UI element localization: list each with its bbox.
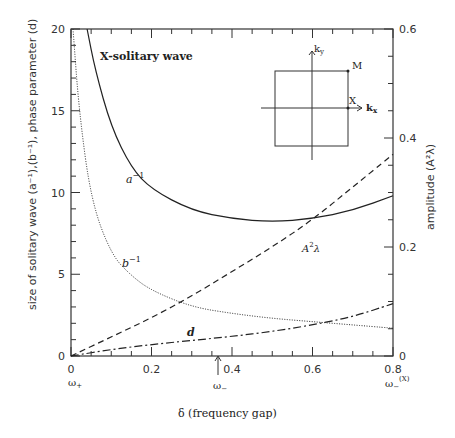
svg-text:20: 20 [51, 23, 65, 36]
inset-label-ky: ky [314, 43, 324, 56]
svg-text:0.6: 0.6 [399, 23, 417, 36]
plot-area: 00.20.40.60.80510152000.20.40.6 M X kx k… [0, 0, 455, 438]
brillouin-zone-inset [261, 51, 362, 160]
svg-text:0: 0 [68, 363, 75, 376]
chart-title: X-solitary wave [100, 50, 193, 63]
svg-text:0: 0 [58, 350, 65, 363]
x-axis-label: δ (frequency gap) [178, 407, 277, 420]
chart: 00.20.40.60.80510152000.20.40.6 M X kx k… [0, 0, 455, 438]
inset-label-M: M [352, 60, 362, 71]
label-d: d [187, 326, 195, 339]
label-b-inv: b−1 [122, 255, 141, 270]
axis-ticks: 00.20.40.60.80510152000.20.40.6 [51, 23, 417, 376]
omega-plus: ω+ [68, 377, 82, 390]
svg-text:0.4: 0.4 [223, 363, 241, 376]
curve-dashed [71, 154, 393, 356]
label-a-inv: a−1 [126, 171, 144, 186]
curve-dotted [73, 29, 393, 328]
svg-text:0: 0 [399, 350, 406, 363]
omega-minus-x: ω−(X) [385, 375, 410, 391]
svg-text:15: 15 [51, 105, 65, 118]
curves [71, 29, 393, 356]
svg-text:0.2: 0.2 [399, 241, 417, 254]
y-left-label: size of solitary wave (a⁻¹),(b⁻¹), phase… [26, 19, 39, 310]
y-right-label: amplitude (A²λ) [424, 144, 437, 230]
inset-label-kx: kx [366, 102, 378, 115]
inset-label-X: X [349, 95, 357, 106]
omega-minus: ω− [213, 380, 227, 393]
label-A2lambda: A2λ [301, 241, 320, 254]
svg-text:10: 10 [51, 187, 65, 200]
svg-text:0.2: 0.2 [143, 363, 161, 376]
svg-text:5: 5 [58, 268, 65, 281]
svg-text:0.4: 0.4 [399, 132, 417, 145]
plot-frame [71, 29, 393, 356]
svg-text:0.6: 0.6 [304, 363, 322, 376]
